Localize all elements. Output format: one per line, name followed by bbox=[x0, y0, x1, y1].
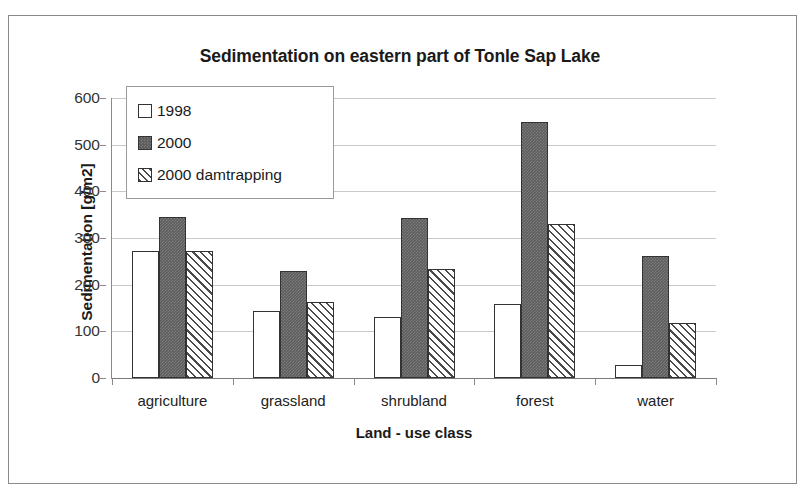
legend-swatch-icon-1 bbox=[138, 136, 152, 150]
x-tick-mark-edge-1 bbox=[716, 378, 717, 385]
y-tick-label-300: 300 bbox=[46, 230, 100, 246]
y-tick-mark-500 bbox=[100, 145, 106, 146]
legend-item-2000: 2000 bbox=[138, 127, 333, 159]
chart-title: Sedimentation on eastern part of Tonle S… bbox=[60, 46, 740, 67]
chart-legend: 199820002000 damtrapping bbox=[126, 86, 334, 199]
bar-water-1998 bbox=[615, 365, 642, 378]
legend-label-2: 2000 damtrapping bbox=[157, 166, 282, 184]
bar-grassland-1998 bbox=[253, 311, 280, 378]
y-tick-label-500: 500 bbox=[46, 137, 100, 153]
gridline-0 bbox=[112, 378, 716, 379]
bar-agriculture-2000-damtrapping bbox=[186, 251, 213, 378]
legend-label-1: 2000 bbox=[157, 134, 191, 152]
x-axis-title: Land - use class bbox=[112, 424, 716, 441]
legend-item-2000-damtrapping: 2000 damtrapping bbox=[138, 159, 333, 191]
y-tick-label-400: 400 bbox=[46, 183, 100, 199]
bar-grassland-2000-damtrapping bbox=[307, 302, 334, 378]
x-tick-label-water: water bbox=[595, 392, 716, 409]
y-tick-label-200: 200 bbox=[46, 277, 100, 293]
bar-shrubland-2000 bbox=[401, 218, 428, 378]
x-tick-label-forest: forest bbox=[474, 392, 595, 409]
y-tick-label-100: 100 bbox=[46, 323, 100, 339]
x-tick-label-shrubland: shrubland bbox=[354, 392, 475, 409]
x-tick-label-agriculture: agriculture bbox=[112, 392, 233, 409]
legend-swatch-icon-0 bbox=[138, 104, 152, 118]
y-tick-label-0: 0 bbox=[46, 370, 100, 386]
x-tick-label-grassland: grassland bbox=[233, 392, 354, 409]
y-tick-mark-0 bbox=[100, 378, 106, 379]
bar-water-2000 bbox=[642, 256, 669, 378]
x-tick-mark-2 bbox=[354, 378, 355, 385]
y-tick-mark-100 bbox=[100, 331, 106, 332]
y-tick-mark-300 bbox=[100, 238, 106, 239]
legend-item-1998: 1998 bbox=[138, 95, 333, 127]
y-tick-label-600: 600 bbox=[46, 90, 100, 106]
bar-grassland-2000 bbox=[280, 271, 307, 378]
legend-swatch-icon-2 bbox=[138, 168, 152, 182]
y-axis-tick-labels: 6005004003002001000 bbox=[46, 98, 100, 378]
x-tick-mark-edge-0 bbox=[112, 378, 113, 385]
y-tick-mark-200 bbox=[100, 285, 106, 286]
bar-agriculture-1998 bbox=[132, 251, 159, 378]
legend-label-0: 1998 bbox=[157, 102, 191, 120]
x-tick-mark-4 bbox=[595, 378, 596, 385]
y-tick-mark-600 bbox=[100, 98, 106, 99]
bar-forest-2000-damtrapping bbox=[548, 224, 575, 378]
x-tick-mark-3 bbox=[474, 378, 475, 385]
x-tick-mark-1 bbox=[233, 378, 234, 385]
bar-shrubland-2000-damtrapping bbox=[428, 269, 455, 378]
bar-agriculture-2000 bbox=[159, 217, 186, 378]
bar-shrubland-1998 bbox=[374, 317, 401, 378]
chart-figure: Sedimentation on eastern part of Tonle S… bbox=[0, 0, 812, 504]
bar-forest-1998 bbox=[494, 304, 521, 378]
y-tick-mark-400 bbox=[100, 191, 106, 192]
bar-forest-2000 bbox=[521, 122, 548, 378]
bar-water-2000-damtrapping bbox=[669, 323, 696, 378]
